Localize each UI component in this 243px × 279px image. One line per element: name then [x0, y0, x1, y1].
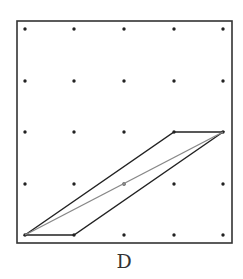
grid-dot [122, 130, 125, 133]
grid-dot [72, 130, 75, 133]
grid-dot [172, 182, 175, 185]
grid-dot [122, 233, 125, 236]
midpoint-dot [122, 182, 126, 186]
grid-dot [23, 79, 26, 82]
grid-dot [122, 79, 125, 82]
figure-label: D [0, 250, 243, 272]
grid-dot [221, 27, 224, 30]
grid-dot [72, 27, 75, 30]
grid-dot [172, 233, 175, 236]
grid-dot [72, 79, 75, 82]
grid-dot [172, 79, 175, 82]
grid-dot [23, 182, 26, 185]
grid-dot [72, 182, 75, 185]
grid-dot [23, 27, 26, 30]
grid-dot [221, 182, 224, 185]
grid-dot [221, 233, 224, 236]
geoboard-diagram [0, 0, 243, 279]
grid-dot [172, 27, 175, 30]
grid-dot [23, 130, 26, 133]
grid-dot [122, 27, 125, 30]
grid-dot [221, 79, 224, 82]
